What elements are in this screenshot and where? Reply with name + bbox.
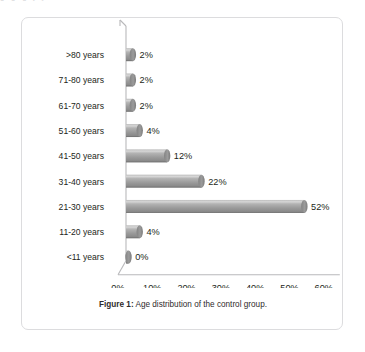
- category-label: 41-50 years: [59, 151, 104, 161]
- bar-end-cap: [130, 73, 136, 86]
- x-axis-tick-label: 20%: [177, 283, 195, 288]
- age-distribution-chart: >80 years2%71-80 years2%61-70 years2%51-…: [22, 18, 344, 288]
- bar: [126, 175, 201, 188]
- bar-value-label: 22%: [208, 177, 226, 187]
- category-label: 31-40 years: [59, 177, 104, 187]
- bar-value-label: 12%: [174, 151, 192, 161]
- bar-row: 71-80 years2%: [59, 73, 153, 86]
- bar-row: 51-60 years4%: [59, 124, 160, 137]
- bar-end-cap: [137, 124, 143, 137]
- figure-caption-label: Figure 1: [99, 300, 131, 309]
- bar-end-cap: [198, 175, 204, 188]
- category-label: 61-70 years: [59, 101, 104, 111]
- x-axis-tick-label: 40%: [246, 283, 264, 288]
- bar-end-cap: [164, 149, 170, 162]
- bar-end-cap: [130, 99, 136, 112]
- x-axis-tick-label: 10%: [143, 283, 161, 288]
- bar-row: <11 years0%: [67, 251, 149, 264]
- y-axis-top-depth-edge: [120, 20, 126, 26]
- bar-end-cap: [137, 225, 143, 238]
- category-label: 71-80 years: [59, 75, 104, 85]
- bar-row: 41-50 years12%: [59, 149, 193, 162]
- bar-row: 11-20 years4%: [59, 225, 159, 238]
- bar: [126, 200, 304, 213]
- chart-canvas: >80 years2%71-80 years2%61-70 years2%51-…: [22, 18, 344, 288]
- bar-end-cap: [130, 48, 136, 61]
- category-label: >80 years: [66, 50, 104, 60]
- bar-row: 31-40 years22%: [59, 175, 227, 188]
- axis-depth-diagonal: [118, 261, 126, 275]
- bar-value-label: 2%: [140, 75, 153, 85]
- bar-value-label: 52%: [311, 202, 329, 212]
- bar-end-cap: [301, 200, 307, 213]
- category-label: 11-20 years: [59, 227, 104, 237]
- bar-value-label: 2%: [140, 101, 153, 111]
- x-axis-tick-label: 50%: [280, 283, 298, 288]
- bar-value-label: 4%: [146, 126, 159, 136]
- category-label: <11 years: [67, 252, 104, 262]
- category-label: 51-60 years: [59, 126, 104, 136]
- bar-value-label: 0%: [135, 252, 148, 262]
- bar-value-label: 4%: [146, 227, 159, 237]
- bar-row: 61-70 years2%: [59, 99, 153, 112]
- bar-row: >80 years2%: [66, 48, 153, 61]
- bar-row: 21-30 years52%: [59, 200, 330, 213]
- x-axis-tick-label: 60%: [315, 283, 333, 288]
- x-axis-tick-label: 30%: [212, 283, 230, 288]
- bar-end-cap: [125, 251, 131, 264]
- figure-card: >80 years2%71-80 years2%61-70 years2%51-…: [21, 17, 343, 330]
- bar-value-label: 2%: [140, 50, 153, 60]
- figure-caption: Figure 1: Age distribution of the contro…: [22, 299, 344, 310]
- category-label: 21-30 years: [59, 202, 104, 212]
- bar: [126, 149, 167, 162]
- figure-caption-text: Age distribution of the control group.: [134, 300, 267, 309]
- page-text-bleed: g g g j y: [0, 0, 365, 9]
- x-axis-tick-label: 0%: [111, 283, 124, 288]
